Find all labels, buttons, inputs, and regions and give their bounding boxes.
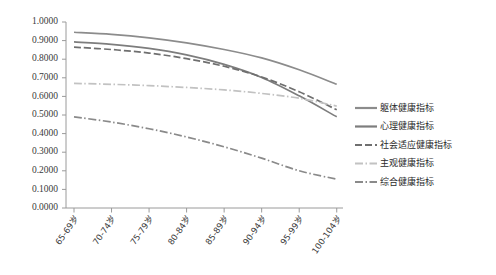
y-axis-tick-label: 1.0000 <box>32 16 58 26</box>
legend-item-label: 主观健康指标 <box>380 157 434 168</box>
legend-item-label: 综合健康指标 <box>380 176 434 187</box>
legend-item-label: 躯体健康指标 <box>380 102 434 113</box>
line-chart: 1.00000.90000.80000.70000.60000.50000.40… <box>0 0 496 275</box>
x-axis-tick-labels: 65-69岁70-74岁75-79岁80-84岁85-89岁90-94岁95-9… <box>53 213 343 255</box>
legend: 躯体健康指标心理健康指标社会适应健康指标主观健康指标综合健康指标 <box>355 102 452 187</box>
y-axis-tick-label: 0.9000 <box>32 35 58 45</box>
x-axis-tick-label: 95-99岁 <box>278 213 306 246</box>
series-line <box>74 32 337 84</box>
y-axis-tick-label: 0.3000 <box>32 146 58 156</box>
x-axis-tick-label: 75-79岁 <box>128 213 156 246</box>
series-line <box>74 42 337 117</box>
y-axis-tick-label: 0.1000 <box>32 184 58 194</box>
x-axis-tick-label: 100-104岁 <box>310 213 344 255</box>
y-axis-tick-labels: 1.00000.90000.80000.70000.60000.50000.40… <box>32 16 58 212</box>
series-line <box>74 47 337 110</box>
legend-item-label: 社会适应健康指标 <box>380 139 452 150</box>
x-axis-tick-label: 65-69岁 <box>53 213 81 246</box>
legend-item-label: 心理健康指标 <box>380 120 434 131</box>
series-group <box>74 32 337 179</box>
y-axis-tick-label: 0.5000 <box>32 109 58 119</box>
y-axis-tick-marks <box>62 22 66 208</box>
y-axis-tick-label: 0.4000 <box>32 128 58 138</box>
x-axis-tick-label: 80-84岁 <box>166 213 194 246</box>
chart-canvas: 1.00000.90000.80000.70000.60000.50000.40… <box>0 0 496 275</box>
x-axis-tick-label: 70-74岁 <box>91 213 119 246</box>
x-axis-tick-label: 90-94岁 <box>241 213 269 246</box>
y-axis-tick-label: 0.2000 <box>32 165 58 175</box>
y-axis-tick-label: 0.6000 <box>32 91 58 101</box>
x-axis-tick-label: 85-89岁 <box>203 213 231 246</box>
y-axis-tick-label: 0.7000 <box>32 72 58 82</box>
y-axis-tick-label: 0.0000 <box>32 202 58 212</box>
x-axis-tick-marks <box>74 208 337 213</box>
y-axis-tick-label: 0.8000 <box>32 53 58 63</box>
series-line <box>74 117 337 179</box>
